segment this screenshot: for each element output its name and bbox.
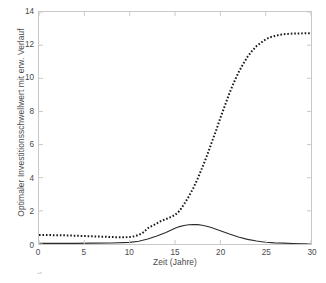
- x-tick-15: 15: [160, 248, 190, 257]
- x-tick-20: 20: [206, 248, 236, 257]
- plot-area: [38, 11, 312, 245]
- chart-figure: Optimaler Investitionsschwellwert mit er…: [0, 0, 326, 283]
- axis-tick-marks: [39, 12, 311, 244]
- x-tick-25: 25: [251, 248, 281, 257]
- caption-fragment-text: Abbildung: [2, 272, 122, 274]
- y-tick-14: 14: [4, 7, 34, 16]
- y-tick-2: 2: [4, 207, 34, 216]
- series-group: [39, 33, 311, 243]
- series-optimaler-investitionsschwellwert: [39, 33, 311, 237]
- x-tick-30: 30: [297, 248, 326, 257]
- y-tick-4: 4: [4, 174, 34, 183]
- x-tick-0: 0: [23, 248, 53, 257]
- x-tick-5: 5: [69, 248, 99, 257]
- y-tick-10: 10: [4, 73, 34, 82]
- y-axis-tick-labels: 02468101214: [0, 0, 34, 283]
- y-tick-6: 6: [4, 140, 34, 149]
- x-axis-label: Zeit (Jahre): [38, 257, 312, 267]
- x-tick-10: 10: [114, 248, 144, 257]
- y-tick-8: 8: [4, 107, 34, 116]
- caption-fragment: Abbildung: [2, 272, 122, 283]
- chart-canvas: [39, 12, 311, 244]
- y-tick-12: 12: [4, 40, 34, 49]
